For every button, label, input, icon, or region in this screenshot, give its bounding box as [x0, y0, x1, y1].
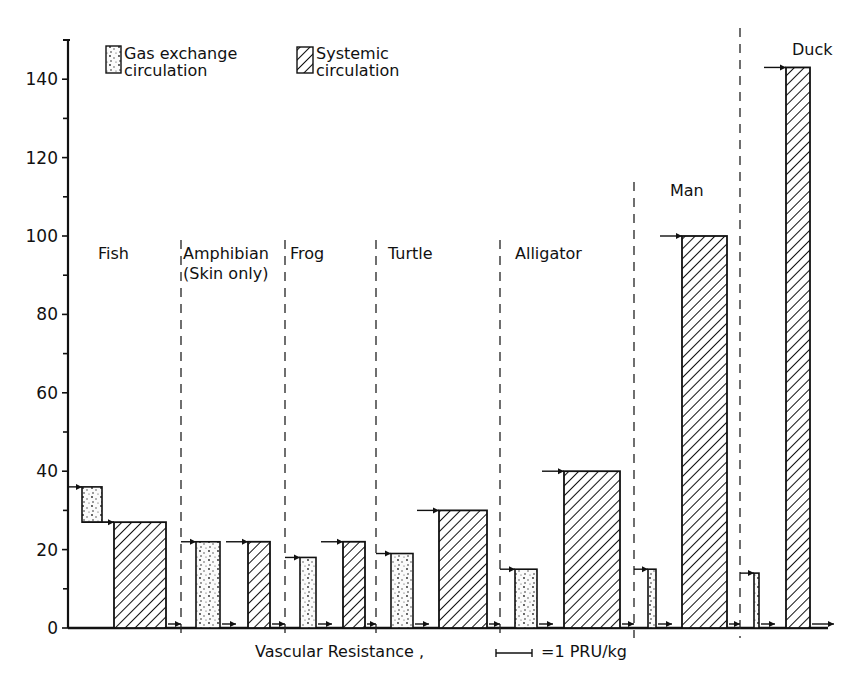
group-label: Turtle	[387, 244, 433, 263]
gas-exchange-bar	[196, 542, 220, 628]
group-label: Fish	[98, 244, 129, 263]
group-label: Alligator	[515, 244, 582, 263]
systemic-bar	[786, 67, 810, 628]
bar-group-amphibian-skin-only	[181, 539, 285, 628]
systemic-bar	[682, 236, 727, 628]
bar-group-alligator	[500, 468, 634, 628]
legend-label-systemic-line2: circulation	[316, 61, 399, 80]
gas-exchange-bar	[82, 487, 102, 522]
y-tick-label: 60	[36, 383, 58, 403]
group-label: Frog	[290, 244, 324, 263]
bar-group-fish	[68, 484, 181, 628]
x-axis-title: Vascular Resistance ,	[255, 642, 424, 661]
x-axis-label: Vascular Resistance ,=1 PRU/kg	[255, 642, 627, 661]
bars	[68, 64, 834, 628]
bar-group-duck	[740, 64, 834, 628]
gas-exchange-bar	[391, 554, 413, 628]
y-tick-label: 40	[36, 461, 58, 481]
systemic-bar	[439, 510, 487, 628]
scale-bar-label: =1 PRU/kg	[541, 642, 627, 661]
resistance-bar-chart: 020406080100120140 FishAmphibian(Skin on…	[0, 0, 844, 691]
gas-exchange-bar	[648, 569, 656, 628]
bar-group-turtle	[376, 507, 500, 628]
y-tick-label: 140	[26, 69, 58, 89]
legend-label-gas-exchange-line2: circulation	[124, 61, 207, 80]
group-label: (Skin only)	[183, 264, 268, 283]
systemic-bar	[564, 471, 620, 628]
legend-swatch-gas-exchange	[106, 46, 121, 73]
bar-group-frog	[285, 539, 376, 628]
group-label: Man	[670, 181, 704, 200]
group-label: Duck	[792, 40, 833, 59]
systemic-bar	[248, 542, 270, 628]
y-tick-label: 100	[26, 226, 58, 246]
legend-swatch-systemic	[297, 47, 313, 73]
gas-exchange-bar	[300, 557, 316, 628]
group-label: Amphibian	[183, 244, 269, 263]
gas-exchange-bar	[515, 569, 537, 628]
systemic-bar	[114, 522, 166, 628]
y-tick-label: 20	[36, 540, 58, 560]
systemic-bar	[343, 542, 365, 628]
bar-group-man	[634, 233, 740, 628]
gas-exchange-bar	[754, 573, 759, 628]
y-tick-label: 80	[36, 304, 58, 324]
y-tick-label: 0	[47, 618, 58, 638]
y-tick-label: 120	[26, 148, 58, 168]
legend: Gas exchangecirculationSystemiccirculati…	[106, 44, 399, 80]
